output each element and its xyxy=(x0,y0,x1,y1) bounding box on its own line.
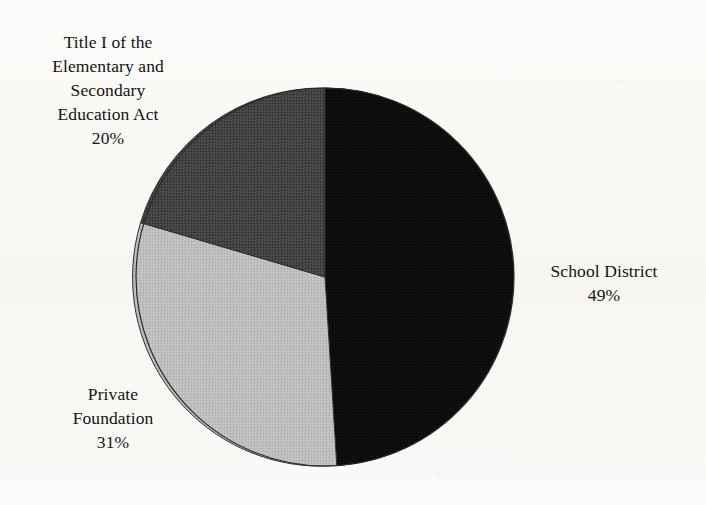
pie-slice-school-district[interactable] xyxy=(325,88,514,466)
pie-chart-figure: Title I of the Elementary and Secondary … xyxy=(0,0,706,505)
pie-label-school-district: School District 49% xyxy=(518,259,690,307)
pie-label-private-foundation: Private Foundation 31% xyxy=(32,382,194,454)
pie-label-title-i: Title I of the Elementary and Secondary … xyxy=(8,30,208,150)
